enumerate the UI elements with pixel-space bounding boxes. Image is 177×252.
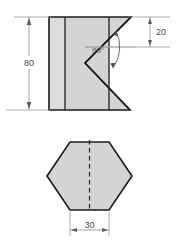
technical-drawing: 80 20 90° — [0, 0, 177, 252]
dim-20-arrow-top — [148, 18, 152, 24]
dim-80-arrow-bottom — [27, 102, 32, 109]
dim-80-arrow-top — [27, 18, 32, 25]
dim-20-arrow-bottom — [148, 40, 152, 46]
angle-arc — [113, 31, 120, 68]
angle-label: 90° — [92, 46, 104, 55]
dimension-width-30: 30 — [70, 212, 109, 236]
front-view-middle-slab-face — [65, 17, 109, 110]
front-view — [49, 17, 131, 110]
dim-20-label: 20 — [156, 27, 166, 37]
dimension-height-80: 80 — [6, 17, 51, 110]
dim-30-arrow-left — [71, 228, 77, 232]
dim-80-label: 80 — [24, 58, 34, 68]
top-view — [47, 140, 132, 212]
front-view-left-slab-face — [49, 17, 65, 110]
dim-30-label: 30 — [84, 220, 94, 230]
dim-30-arrow-right — [102, 228, 108, 232]
drawing-canvas: 80 20 90° — [0, 0, 177, 252]
